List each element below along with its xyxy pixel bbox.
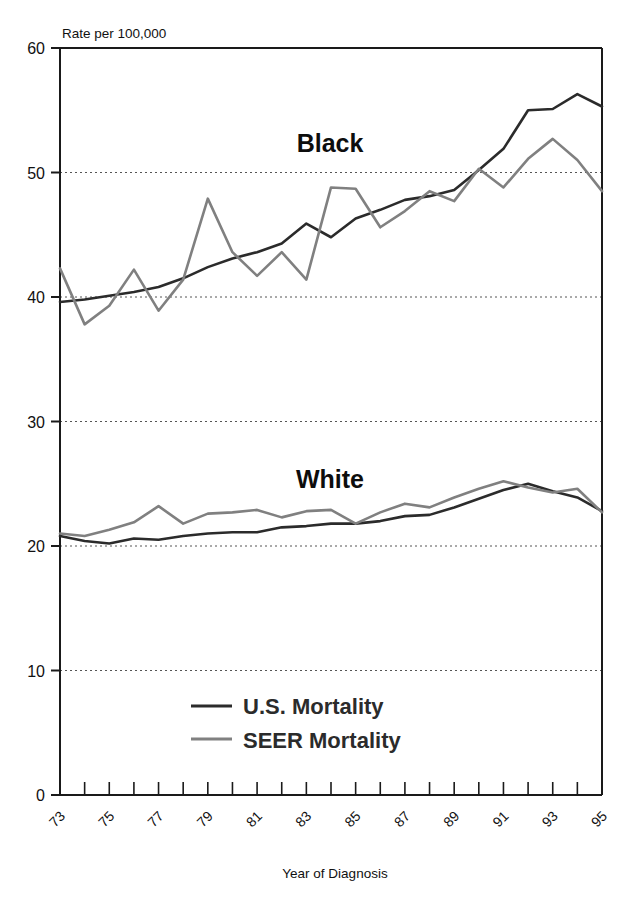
- x-tick-label-83: 83: [292, 808, 314, 830]
- y-tick-label-20: 20: [27, 538, 45, 555]
- y-tick-label-60: 60: [27, 40, 45, 57]
- y-tick-label-0: 0: [36, 787, 45, 804]
- x-tick-label-73: 73: [46, 808, 68, 830]
- x-tick-label-91: 91: [489, 808, 511, 830]
- y-tick-label-40: 40: [27, 289, 45, 306]
- series-line-black-u-s-mortality: [60, 94, 602, 302]
- x-tick-label-81: 81: [243, 808, 265, 830]
- x-tick-label-93: 93: [539, 808, 561, 830]
- x-axis-title: Year of Diagnosis: [282, 866, 388, 881]
- x-tick-label-77: 77: [144, 808, 166, 830]
- x-tick-label-85: 85: [341, 808, 363, 830]
- y-axis-caption: Rate per 100,000: [62, 26, 166, 41]
- gridlines: [60, 173, 602, 671]
- x-tick-label-89: 89: [440, 808, 462, 830]
- x-tick-label-87: 87: [391, 808, 413, 830]
- legend-label-us-mortality: U.S. Mortality: [243, 694, 384, 719]
- y-axis-ticks: 0102030405060: [27, 40, 60, 804]
- x-tick-label-95: 95: [588, 808, 610, 830]
- y-tick-label-10: 10: [27, 663, 45, 680]
- x-tick-label-75: 75: [95, 808, 117, 830]
- y-tick-label-30: 30: [27, 414, 45, 431]
- line-chart: 0102030405060 737577798183858789919395 R…: [0, 0, 624, 906]
- legend-label-seer-mortality: SEER Mortality: [243, 728, 401, 753]
- y-tick-label-50: 50: [27, 165, 45, 182]
- chart-legend: U.S. Mortality SEER Mortality: [191, 694, 401, 753]
- black-group-label: Black: [297, 129, 364, 157]
- white-group-label: White: [296, 465, 364, 493]
- chart-figure: 0102030405060 737577798183858789919395 R…: [0, 0, 624, 906]
- x-tick-label-79: 79: [194, 808, 216, 830]
- x-axis-ticks: 737577798183858789919395: [46, 782, 610, 830]
